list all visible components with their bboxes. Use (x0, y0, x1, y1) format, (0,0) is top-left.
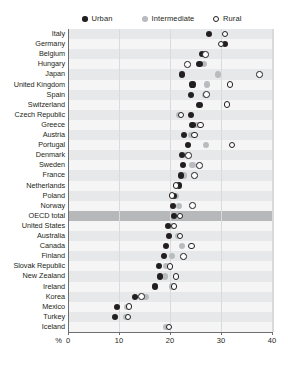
open-circle-icon (213, 16, 219, 22)
data-point-rural (189, 202, 196, 209)
data-point-rural (197, 122, 204, 129)
legend-item-intermediate: Intermediate (142, 11, 194, 27)
data-point-intermediate (176, 203, 182, 209)
x-tick-40 (272, 332, 273, 335)
data-point-rural (202, 51, 209, 58)
data-point-rural (171, 283, 178, 290)
dot-plot-chart: Urban Intermediate Rural ItalyGermanyBel… (0, 0, 286, 365)
data-point-rural (196, 162, 203, 169)
legend-label-intermediate: Intermediate (152, 11, 195, 27)
x-tick-label: 30 (209, 335, 233, 347)
data-point-rural (167, 263, 174, 270)
data-point-rural (185, 152, 192, 159)
data-point-rural (180, 253, 187, 260)
data-point-urban (157, 273, 163, 279)
data-point-intermediate (203, 142, 209, 148)
data-point-intermediate (204, 81, 210, 87)
data-point-urban (114, 304, 120, 310)
data-point-urban (189, 122, 195, 128)
data-point-urban (189, 81, 195, 87)
x-tick-label: 20 (158, 335, 182, 347)
x-tick-label: 40 (260, 335, 284, 347)
data-point-rural (203, 91, 210, 98)
gridline-x-10 (119, 29, 120, 332)
data-point-rural (256, 71, 263, 78)
category-axis-labels: ItalyGermanyBelgiumHungaryJapanUnited Ki… (0, 29, 65, 332)
category-label: Iceland (0, 322, 65, 333)
data-point-urban (178, 172, 184, 178)
data-point-rural (184, 61, 191, 68)
plot-area (68, 29, 274, 332)
legend-item-urban: Urban (82, 11, 112, 27)
data-point-urban (112, 314, 118, 320)
data-point-rural (191, 172, 198, 179)
x-axis-labels: 010203040 (0, 335, 286, 349)
x-tick-20 (170, 332, 171, 335)
legend-label-rural: Rural (223, 11, 241, 27)
legend-label-urban: Urban (92, 11, 113, 27)
gray-circle-icon (142, 16, 148, 22)
data-point-urban (206, 31, 212, 37)
x-tick-label: 0 (56, 335, 80, 347)
data-point-urban (152, 283, 158, 289)
gridline-x-40 (272, 29, 273, 332)
data-point-intermediate (189, 162, 195, 168)
data-point-rural (188, 243, 195, 250)
data-point-urban (170, 203, 176, 209)
filled-circle-icon (82, 16, 88, 22)
data-point-urban (179, 71, 185, 77)
x-tick-0 (68, 332, 69, 335)
gridline-x-30 (221, 29, 222, 332)
data-point-rural (191, 132, 198, 139)
x-tick-30 (221, 332, 222, 335)
chart-legend: Urban Intermediate Rural (0, 11, 286, 27)
x-tick-10 (119, 332, 120, 335)
legend-item-rural: Rural (213, 11, 241, 27)
data-point-rural (138, 293, 145, 300)
data-point-urban (196, 102, 202, 108)
data-point-rural (173, 273, 180, 280)
data-point-intermediate (215, 71, 221, 77)
x-tick-label: 10 (107, 335, 131, 347)
